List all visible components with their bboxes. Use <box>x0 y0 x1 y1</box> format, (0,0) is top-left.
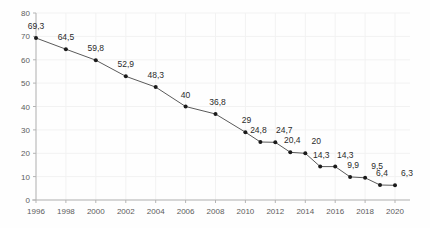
x-tick-label: 2012 <box>266 207 284 216</box>
data-point-label: 40 <box>181 90 191 100</box>
x-tick-label: 1998 <box>57 207 75 216</box>
y-tick-label: 0 <box>26 196 31 205</box>
data-point-label: 48,3 <box>147 70 164 80</box>
x-tick-label: 2016 <box>326 207 344 216</box>
line-chart: 01020304050607080 1996199820002002200420… <box>0 0 430 228</box>
data-point-marker <box>303 151 307 155</box>
data-point-label: 20,4 <box>284 135 301 145</box>
data-point-marker <box>154 85 158 89</box>
x-tick-label: 2006 <box>177 207 195 216</box>
data-point-marker <box>333 165 337 169</box>
data-point-marker <box>273 140 277 144</box>
data-point-marker <box>124 74 128 78</box>
data-point-label: 36,8 <box>209 97 226 107</box>
data-point-label: 52,9 <box>118 59 135 69</box>
data-point-marker <box>318 165 322 169</box>
y-tick-label: 10 <box>21 173 30 182</box>
x-tick-label: 2020 <box>386 207 404 216</box>
data-point-marker <box>214 112 218 116</box>
data-point-marker <box>184 105 188 109</box>
data-point-marker <box>258 140 262 144</box>
data-point-marker <box>348 175 352 179</box>
data-point-label: 24,8 <box>250 125 267 135</box>
data-point-marker <box>378 183 382 187</box>
y-tick-label: 40 <box>21 103 30 112</box>
data-point-label: 29 <box>242 115 252 125</box>
data-point-label: 59,8 <box>88 43 105 53</box>
data-point-label: 20 <box>312 136 322 146</box>
data-point-marker <box>393 183 397 187</box>
x-tick-label: 1996 <box>27 207 45 216</box>
y-tick-label: 30 <box>21 126 30 135</box>
x-tick-label: 2018 <box>356 207 374 216</box>
y-tick-label: 70 <box>21 32 30 41</box>
data-point-label: 14,3 <box>337 150 354 160</box>
x-tick-label: 2014 <box>296 207 314 216</box>
chart-axes <box>32 13 410 203</box>
data-point-label: 64,5 <box>58 32 75 42</box>
data-point-labels: 69,364,559,852,948,34036,82924,824,720,4… <box>28 21 413 178</box>
x-tick-label: 2010 <box>237 207 255 216</box>
data-point-marker <box>34 36 38 40</box>
data-point-marker <box>288 150 292 154</box>
data-point-marker <box>363 176 367 180</box>
x-tick-label: 2000 <box>87 207 105 216</box>
data-point-label: 6,3 <box>401 168 413 178</box>
y-axis-tick-labels: 01020304050607080 <box>21 9 30 205</box>
x-tick-label: 2004 <box>147 207 165 216</box>
data-point-label: 14,3 <box>313 150 330 160</box>
x-axis-tick-labels: 1996199820002002200420062008201020122014… <box>27 207 404 216</box>
data-point-label: 6,4 <box>376 168 388 178</box>
x-tick-label: 2008 <box>207 207 225 216</box>
data-point-marker <box>94 58 98 62</box>
data-point-label: 9,9 <box>347 160 359 170</box>
data-point-marker <box>243 130 247 134</box>
y-tick-label: 50 <box>21 79 30 88</box>
y-tick-label: 20 <box>21 149 30 158</box>
data-point-label: 24,7 <box>276 125 293 135</box>
chart-canvas: 01020304050607080 1996199820002002200420… <box>0 0 430 228</box>
y-tick-label: 80 <box>21 9 30 18</box>
data-point-label: 69,3 <box>28 21 45 31</box>
x-tick-label: 2002 <box>117 207 135 216</box>
data-point-marker <box>64 47 68 51</box>
y-tick-label: 60 <box>21 56 30 65</box>
